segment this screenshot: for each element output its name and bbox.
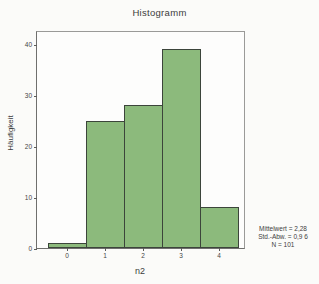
- y-tick-mark-20: [34, 147, 37, 148]
- plot-area: 01020304001234: [36, 31, 245, 249]
- y-tick-label-20: 20: [25, 144, 32, 151]
- histogram-bar-1: [86, 121, 125, 248]
- y-axis-label: Häufigkeit: [6, 115, 15, 151]
- x-tick-label-3: 3: [179, 253, 183, 260]
- y-tick-label-30: 30: [25, 93, 32, 100]
- y-tick-mark-0: [34, 249, 37, 250]
- x-tick-label-0: 0: [65, 253, 69, 260]
- stats-annotation: Mittelwert = 2,28 Std.-Abw. = 0,9 6 N = …: [248, 225, 318, 249]
- y-tick-label-10: 10: [25, 195, 32, 202]
- chart-title: Histogramm: [0, 7, 319, 18]
- x-tick-mark-2: [143, 248, 144, 251]
- histogram-bar-3: [162, 49, 201, 248]
- y-tick-label-40: 40: [25, 42, 32, 49]
- x-tick-mark-4: [219, 248, 220, 251]
- y-tick-label-0: 0: [28, 246, 32, 253]
- x-axis-label: n2: [135, 266, 145, 276]
- y-tick-mark-40: [34, 45, 37, 46]
- histogram-bar-4: [200, 207, 239, 248]
- histogram-bar-2: [124, 105, 163, 248]
- y-tick-mark-10: [34, 198, 37, 199]
- y-tick-mark-30: [34, 96, 37, 97]
- x-tick-label-1: 1: [103, 253, 107, 260]
- x-tick-mark-3: [181, 248, 182, 251]
- stat-stddev: Std.-Abw. = 0,9 6: [248, 233, 318, 241]
- x-tick-label-2: 2: [141, 253, 145, 260]
- stat-n: N = 101: [248, 241, 318, 249]
- stat-mean: Mittelwert = 2,28: [248, 225, 318, 233]
- x-tick-mark-1: [105, 248, 106, 251]
- histogram-figure: Histogramm Häufigkeit 01020304001234 n2 …: [0, 0, 319, 284]
- x-tick-label-4: 4: [217, 253, 221, 260]
- x-tick-mark-0: [67, 248, 68, 251]
